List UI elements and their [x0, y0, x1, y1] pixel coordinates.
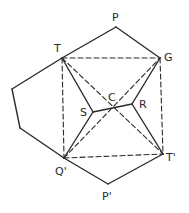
solid-edge-L2-Q [20, 128, 64, 158]
solid-edge-Pp-Tp [108, 154, 163, 184]
label-G: G [164, 51, 173, 64]
label-Q-prime: Q' [55, 165, 67, 178]
label-R: R [139, 98, 147, 111]
solid-edge-Q-Pp [64, 158, 108, 184]
solid-edge-S-R [93, 104, 132, 112]
solid-edge-T-S [62, 58, 93, 112]
label-P-prime: P' [102, 190, 112, 203]
geometry-diagram: P T G S C R Q' T' P' [0, 0, 189, 213]
solid-edge-P-G [116, 27, 160, 58]
solid-edge-S-Q [64, 112, 93, 158]
solid-edge-T-L1 [12, 58, 62, 89]
label-S: S [80, 106, 87, 119]
solid-edge-P-T [62, 27, 116, 58]
dashed-edge-T-Tp [62, 58, 163, 154]
label-T-prime: T' [165, 151, 176, 164]
dashed-edge-G-Tp [160, 58, 163, 154]
label-P: P [112, 11, 119, 24]
dashed-edge-Q-Tp [64, 154, 163, 158]
dashed-edge-T-Q [62, 58, 64, 158]
label-C: C [108, 91, 116, 104]
label-T: T [53, 42, 61, 55]
solid-edge-L1-L2 [12, 89, 20, 128]
solid-edge-R-Tp [132, 104, 163, 154]
